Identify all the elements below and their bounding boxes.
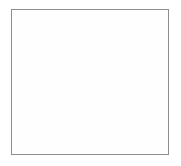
image-border bbox=[11, 9, 169, 155]
figure-root: Globe with region highlight Grayscale sh… bbox=[0, 0, 181, 166]
